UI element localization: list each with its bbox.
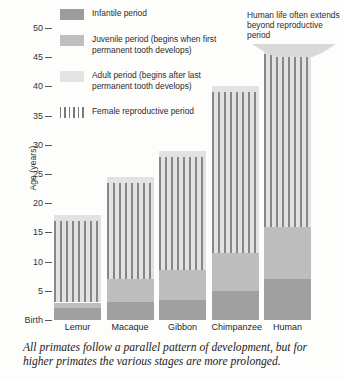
bar-stack bbox=[212, 86, 259, 320]
bar-stack bbox=[107, 177, 154, 320]
bar-stack bbox=[54, 215, 101, 320]
x-axis-label-lemur: Lemur bbox=[54, 322, 101, 332]
y-axis-tick-mark bbox=[45, 116, 52, 117]
legend-swatch-adult bbox=[60, 71, 84, 82]
y-axis-tick-mark bbox=[45, 57, 52, 58]
bar-segment-juvenile bbox=[54, 303, 101, 309]
bar-segment-reproductive bbox=[264, 54, 311, 226]
y-axis-tick-mark bbox=[45, 174, 52, 175]
legend-label-adult: Adult period (begins after last permanen… bbox=[92, 70, 235, 91]
bar-human bbox=[264, 46, 311, 320]
bar-macaque bbox=[107, 177, 154, 320]
y-axis-tick-label: 35 bbox=[33, 111, 43, 121]
legend-label-juvenile: Juvenile period (begins when first perma… bbox=[92, 34, 235, 55]
bar-gibbon bbox=[159, 151, 206, 320]
bar-segment-reproductive bbox=[212, 92, 259, 253]
chart-figure: Age (years) 5045403530252015105Birth Lem… bbox=[0, 0, 345, 379]
y-axis-tick-label: 25 bbox=[33, 169, 43, 179]
legend-swatch-reproductive bbox=[60, 107, 84, 118]
legend-item-infantile: Infantile period bbox=[60, 8, 147, 20]
legend-label-infantile: Infantile period bbox=[92, 8, 147, 19]
bar-segment-infantile bbox=[159, 300, 206, 320]
legend-item-adult: Adult period (begins after last permanen… bbox=[60, 70, 235, 91]
y-axis-tick-label: 5 bbox=[38, 286, 43, 296]
bar-segment-juvenile bbox=[264, 227, 311, 280]
y-axis-tick-label: 45 bbox=[33, 52, 43, 62]
figure-caption: All primates follow a parallel pattern o… bbox=[23, 341, 333, 369]
legend-item-juvenile: Juvenile period (begins when first perma… bbox=[60, 34, 235, 55]
y-axis: Age (years) 5045403530252015105Birth bbox=[0, 0, 52, 330]
x-axis-label-chimpanzee: Chimpanzee bbox=[212, 322, 259, 332]
annotation-text: Human life often extends beyond reproduc… bbox=[247, 10, 343, 41]
y-axis-tick-label: 10 bbox=[33, 257, 43, 267]
y-axis-tick-mark bbox=[45, 262, 52, 263]
y-axis-tick-mark bbox=[45, 320, 52, 321]
y-axis-tick-mark bbox=[45, 28, 52, 29]
legend-swatch-juvenile bbox=[60, 35, 84, 46]
bar-segment-juvenile bbox=[212, 253, 259, 291]
bar-segment-infantile bbox=[264, 279, 311, 320]
x-axis-label-human: Human bbox=[264, 322, 311, 332]
x-axis-label-macaque: Macaque bbox=[107, 322, 154, 332]
bar-lemur bbox=[54, 215, 101, 320]
y-axis-tick-label: 15 bbox=[33, 227, 43, 237]
legend-label-reproductive: Female reproductive period bbox=[92, 106, 194, 117]
bar-segment-juvenile bbox=[159, 270, 206, 299]
y-axis-tick-label: 30 bbox=[33, 140, 43, 150]
y-axis-tick-label: 40 bbox=[33, 81, 43, 91]
y-axis-tick-label: Birth bbox=[24, 315, 43, 325]
y-axis-tick-mark bbox=[45, 145, 52, 146]
y-axis-tick-mark bbox=[45, 86, 52, 87]
y-axis-tick-mark bbox=[45, 291, 52, 292]
legend-swatch-infantile bbox=[60, 9, 84, 20]
legend-item-reproductive: Female reproductive period bbox=[60, 106, 194, 118]
y-axis-tick-mark bbox=[45, 232, 52, 233]
bar-segment-infantile bbox=[54, 308, 101, 320]
bar-chimpanzee bbox=[212, 86, 259, 320]
bar-segment-juvenile bbox=[107, 279, 154, 302]
bar-stack bbox=[264, 46, 311, 320]
y-axis-tick-mark bbox=[45, 203, 52, 204]
bar-segment-infantile bbox=[212, 291, 259, 320]
bar-segment-reproductive bbox=[107, 183, 154, 279]
bar-stack bbox=[159, 151, 206, 320]
bar-segment-infantile bbox=[107, 302, 154, 320]
y-axis-tick-label: 50 bbox=[33, 23, 43, 33]
bar-segment-reproductive bbox=[159, 157, 206, 271]
down-arrow-icon bbox=[252, 44, 336, 58]
x-axis-label-gibbon: Gibbon bbox=[159, 322, 206, 332]
bar-segment-reproductive bbox=[54, 221, 101, 303]
y-axis-tick-label: 20 bbox=[33, 198, 43, 208]
